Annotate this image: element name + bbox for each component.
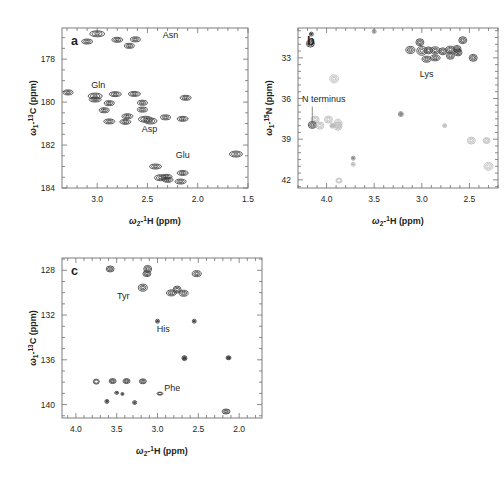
panel-b: 4.03.53.02.533363942bLysN terminusω2-1H … xyxy=(256,18,504,234)
residue-label: Lys xyxy=(420,69,434,79)
spectrum-peak xyxy=(157,392,163,395)
spectrum-peak xyxy=(336,178,342,183)
panel-letter: a xyxy=(71,34,79,48)
spectrum-peak xyxy=(139,379,146,384)
spectrum-peak xyxy=(143,271,151,277)
spectrum-peak xyxy=(109,92,121,97)
spectrum-peak xyxy=(161,115,171,120)
spectrum-peak xyxy=(192,271,201,277)
y-tick-label: 140 xyxy=(41,400,55,410)
spectrum-peak xyxy=(226,356,231,360)
spectrum-peak xyxy=(89,97,101,102)
residue-label: Phe xyxy=(164,383,180,393)
panel-letter: c xyxy=(71,264,78,278)
spectrum-peak xyxy=(121,392,124,395)
spectrum-peak xyxy=(109,379,116,384)
x-tick-label: 2.5 xyxy=(142,194,154,204)
x-tick-label: 2.0 xyxy=(192,194,204,204)
spectrum-peak xyxy=(90,31,105,37)
y-axis-title: ω1-15N (ppm) xyxy=(263,80,275,135)
spectrum-peak xyxy=(133,401,137,405)
spectrum-peak xyxy=(99,108,109,113)
residue-label: Asp xyxy=(142,124,158,134)
spectrum-peak xyxy=(430,55,440,61)
spectrum-peak xyxy=(324,116,332,123)
spectrum-peak xyxy=(484,162,493,170)
spectrum-peak xyxy=(130,37,140,42)
spectrum-peak xyxy=(63,90,73,95)
y-tick-label: 128 xyxy=(41,265,55,275)
spectrum-peak xyxy=(105,399,109,403)
spectrum-peak xyxy=(416,39,424,46)
panel-letter: b xyxy=(307,34,315,48)
residue-label: Asn xyxy=(163,30,179,40)
y-tick-label: 180 xyxy=(41,97,55,107)
x-tick-label: 3.5 xyxy=(111,424,123,434)
x-tick-label: 3.5 xyxy=(368,194,380,204)
spectrum-peak xyxy=(175,179,186,184)
spectrum-peak xyxy=(122,114,133,119)
x-tick-label: 3.0 xyxy=(91,194,103,204)
x-axis-title: ω2-1H (ppm) xyxy=(372,215,424,227)
spectrum-peak xyxy=(443,124,447,128)
spectrum-peak xyxy=(166,290,176,296)
spectrum-peak xyxy=(469,54,477,61)
spectrum-peak xyxy=(483,138,490,144)
spectrum-peak xyxy=(446,52,454,59)
residue-label: Tyr xyxy=(117,291,130,301)
spectrum-peak xyxy=(150,164,162,169)
residue-label: Gln xyxy=(91,80,105,90)
spectrum-peak xyxy=(467,137,475,144)
spectrum-peak xyxy=(112,37,123,42)
spectrum-peak xyxy=(179,290,188,296)
spectrum-peak xyxy=(422,56,431,62)
spectrum-peak xyxy=(222,409,230,414)
y-tick-label: 36 xyxy=(282,94,292,104)
y-tick-label: 136 xyxy=(41,355,55,365)
spectrum-peak xyxy=(104,119,115,124)
spectrum-peak xyxy=(180,95,191,100)
spectrum-peak xyxy=(82,39,93,44)
spectrum-peak xyxy=(138,284,147,291)
y-tick-label: 33 xyxy=(282,53,292,63)
spectrum-peak xyxy=(406,46,415,53)
spectrum-peak xyxy=(120,119,131,124)
spectrum-peak xyxy=(177,170,188,175)
panel-c: 4.03.53.02.52.0128132136140cTyrHisPheω2-… xyxy=(22,248,270,464)
spectrum-peak xyxy=(192,319,196,323)
spectrum-peak xyxy=(115,391,119,394)
spectrum-peak xyxy=(137,100,147,105)
spectrum-peak xyxy=(156,319,160,323)
spectrum-peak xyxy=(351,156,355,160)
spectrum-peak xyxy=(177,116,188,121)
x-tick-label: 3.0 xyxy=(152,424,164,434)
spectrum-peak xyxy=(104,101,114,106)
y-tick-label: 184 xyxy=(41,183,55,193)
x-axis-title: ω2-1H (ppm) xyxy=(129,215,181,227)
spectrum-peak xyxy=(316,122,324,129)
spectrum-peak xyxy=(128,91,140,96)
y-tick-label: 178 xyxy=(41,54,55,64)
spectrum-peak xyxy=(93,379,99,384)
residue-label: Glu xyxy=(176,150,190,160)
y-axis-title: ω1-13C (ppm) xyxy=(27,80,39,135)
spectrum-peak xyxy=(182,356,187,361)
y-tick-label: 132 xyxy=(41,310,55,320)
y-tick-label: 42 xyxy=(282,175,292,185)
x-tick-label: 1.5 xyxy=(242,194,254,204)
residue-label: His xyxy=(157,324,170,334)
spectrum-peak xyxy=(417,46,427,55)
spectrum-peak xyxy=(431,47,440,54)
spectrum-peak xyxy=(398,112,403,117)
spectrum-peak xyxy=(124,43,134,48)
spectrum-peak xyxy=(162,177,173,182)
x-tick-label: 4.0 xyxy=(70,424,82,434)
panel-a: 3.02.52.01.5178180182184aAsnGlnAspGluω2-… xyxy=(22,18,256,234)
x-tick-label: 2.5 xyxy=(464,194,476,204)
x-tick-label: 2.5 xyxy=(192,424,204,434)
x-tick-label: 4.0 xyxy=(321,194,333,204)
residue-label: N terminus xyxy=(302,94,346,104)
y-tick-label: 182 xyxy=(41,140,55,150)
spectrum-peak xyxy=(137,107,147,112)
spectrum-peak xyxy=(330,75,339,83)
